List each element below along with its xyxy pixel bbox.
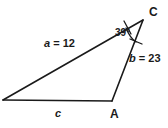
side-b-value: 23 [148, 52, 160, 64]
triangle-figure: a = 12 b = 23 c A C 39° [0, 0, 168, 128]
side-a-value: 12 [63, 37, 75, 49]
side-b-variable: b [129, 52, 136, 64]
angle-c-label: 39° [115, 28, 130, 38]
side-c-label: c [55, 108, 61, 119]
vertex-a-label: A [110, 108, 119, 120]
side-b-label: b = 23 [129, 53, 161, 64]
side-b-equals: = [136, 52, 149, 64]
side-c-line [3, 100, 112, 101]
side-a-label: a = 12 [44, 38, 75, 49]
side-c-variable: c [55, 107, 61, 119]
side-a-equals: = [50, 37, 63, 49]
vertex-c-label: C [149, 6, 158, 18]
triangle-diagram-svg [0, 0, 168, 128]
